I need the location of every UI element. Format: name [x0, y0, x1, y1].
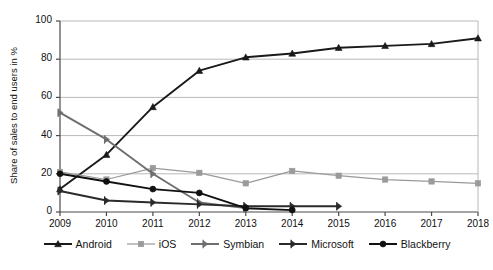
legend-glyph — [191, 240, 219, 249]
data-point-marker — [138, 241, 143, 246]
legend-marker-microsoft — [278, 238, 308, 250]
legend-item-ios[interactable]: iOS — [126, 238, 177, 250]
data-point-marker — [105, 197, 110, 204]
data-point-marker — [336, 173, 341, 178]
data-point-marker — [291, 241, 296, 248]
data-point-marker — [151, 199, 156, 206]
legend-marker-symbian — [190, 238, 220, 250]
data-point-marker — [289, 207, 295, 213]
y-tick-label: 0 — [22, 205, 52, 216]
legend-label: Blackberry — [401, 238, 451, 250]
legend-label: Android — [76, 238, 112, 250]
x-tick-label: 2018 — [455, 218, 493, 229]
x-tick-label: 2014 — [269, 218, 315, 229]
y-tick-label: 100 — [22, 14, 52, 25]
data-point-marker — [337, 203, 342, 210]
x-tick-label: 2010 — [83, 218, 129, 229]
legend-glyph — [369, 241, 397, 247]
data-point-marker — [382, 177, 387, 182]
data-point-marker — [429, 179, 434, 184]
series-line — [60, 38, 478, 189]
data-point-marker — [150, 186, 156, 192]
legend-glyph — [279, 240, 307, 249]
legend-marker-android — [43, 238, 73, 250]
legend-glyph — [44, 241, 72, 247]
y-tick-label: 40 — [22, 129, 52, 140]
legend-label: iOS — [159, 238, 177, 250]
x-tick-label: 2017 — [409, 218, 455, 229]
data-point-marker — [380, 241, 386, 247]
plot-area — [0, 0, 493, 270]
series-line — [60, 174, 292, 210]
data-point-marker — [196, 190, 202, 196]
line-chart: Share of sales to end users in % 0204060… — [0, 0, 493, 270]
x-tick-label: 2016 — [362, 218, 408, 229]
data-point-marker — [243, 205, 249, 211]
legend-item-android[interactable]: Android — [43, 238, 112, 250]
y-axis-title: Share of sales to end users in % — [8, 47, 19, 184]
y-tick-label: 20 — [22, 167, 52, 178]
data-point-marker — [197, 170, 202, 175]
x-tick-label: 2015 — [316, 218, 362, 229]
x-tick-label: 2009 — [37, 218, 83, 229]
data-point-marker — [243, 181, 248, 186]
legend-label: Microsoft — [311, 238, 354, 250]
x-tick-label: 2012 — [176, 218, 222, 229]
y-tick-label: 80 — [22, 52, 52, 63]
y-axis-title-wrap: Share of sales to end users in % — [2, 0, 24, 230]
x-tick-label: 2013 — [223, 218, 269, 229]
chart-legend: AndroidiOSSymbianMicrosoftBlackberry — [0, 238, 493, 250]
legend-marker-blackberry — [368, 238, 398, 250]
series-android — [57, 35, 482, 192]
legend-glyph — [127, 241, 155, 246]
data-point-marker — [290, 168, 295, 173]
data-point-marker — [57, 171, 63, 177]
x-tick-label: 2011 — [130, 218, 176, 229]
legend-marker-ios — [126, 238, 156, 250]
legend-item-blackberry[interactable]: Blackberry — [368, 238, 451, 250]
data-point-marker — [203, 241, 208, 248]
legend-label: Symbian — [223, 238, 264, 250]
data-point-marker — [475, 181, 480, 186]
legend-item-microsoft[interactable]: Microsoft — [278, 238, 354, 250]
series-line — [60, 168, 478, 183]
y-tick-label: 60 — [22, 90, 52, 101]
data-point-marker — [103, 178, 109, 184]
legend-item-symbian[interactable]: Symbian — [190, 238, 264, 250]
series-line — [60, 113, 246, 208]
